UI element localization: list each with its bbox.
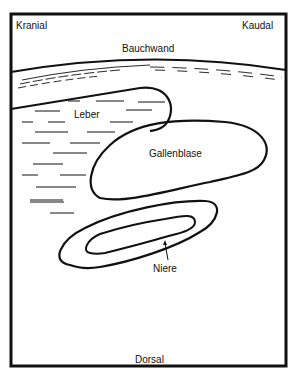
label-bauchwand: Bauchwand <box>122 44 174 54</box>
niere-outer-outline <box>59 201 217 268</box>
label-leber: Leber <box>74 110 100 120</box>
gallenblase-outline <box>91 121 267 200</box>
label-niere: Niere <box>153 264 177 274</box>
label-kaudal: Kaudal <box>242 21 273 31</box>
niere-inner-outline <box>86 216 195 254</box>
bauchwand-line <box>11 59 286 72</box>
fascia-dashes <box>18 65 282 88</box>
label-kranial: Kranial <box>16 21 47 31</box>
label-dorsal: Dorsal <box>135 355 164 365</box>
label-gallenblase: Gallenblase <box>149 149 202 159</box>
diagram-canvas <box>0 0 297 378</box>
